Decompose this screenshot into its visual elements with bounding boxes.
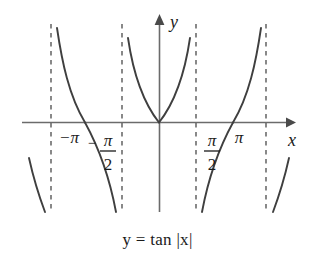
curve-branch-far-left-below: [29, 158, 45, 212]
tick-label-neg-half-pi-numerator: π: [104, 131, 113, 150]
curve-branch-far-right-below: [273, 158, 289, 212]
curve-branch-left-upper: [57, 28, 85, 123]
curve-branch-center-right: [159, 38, 190, 123]
tick-label-neg-pi: −π: [59, 128, 79, 147]
y-axis-arrowhead: [155, 14, 165, 25]
tick-label-neg-half-pi-sign: −: [88, 135, 96, 151]
x-axis-label: x: [287, 130, 296, 150]
curve-branch-right-upper: [233, 28, 261, 123]
curve-branch-center-left: [128, 38, 159, 123]
y-axis-label: y: [168, 12, 178, 32]
tangent-function-figure: −π − π 2 π 2 π y x y = tan |x|: [0, 0, 315, 276]
tick-label-neg-half-pi-denominator: 2: [104, 155, 113, 174]
x-axis-arrowhead: [286, 118, 296, 128]
tick-label-pos-half-pi-denominator: 2: [208, 155, 217, 174]
tick-label-pos-half-pi-numerator: π: [208, 131, 217, 150]
curve-branch-right-lower: [202, 123, 233, 213]
figure-caption: y = tan |x|: [0, 230, 315, 250]
tick-label-pos-pi: π: [235, 128, 244, 147]
